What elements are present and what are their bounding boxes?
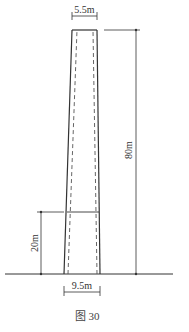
chimney-diagram: 5.5m 80m 20m 9.5m 图 30 bbox=[0, 0, 189, 332]
height-label: 80m bbox=[123, 141, 134, 159]
chimney-inner-right bbox=[93, 30, 97, 274]
lower-dim-end-bottom bbox=[40, 273, 42, 275]
lower-dim-end-top bbox=[40, 211, 42, 213]
chimney-right-wall bbox=[97, 30, 100, 274]
figure-caption: 图 30 bbox=[75, 310, 100, 322]
base-width-label: 9.5m bbox=[72, 280, 93, 291]
top-width-label: 5.5m bbox=[74, 4, 95, 15]
height-dim-end-top bbox=[135, 29, 137, 31]
height-dim-end-bottom bbox=[135, 273, 137, 275]
chimney-left-wall bbox=[64, 30, 72, 274]
chimney-inner-left bbox=[68, 30, 77, 274]
lower-section-label: 20m bbox=[29, 234, 40, 252]
